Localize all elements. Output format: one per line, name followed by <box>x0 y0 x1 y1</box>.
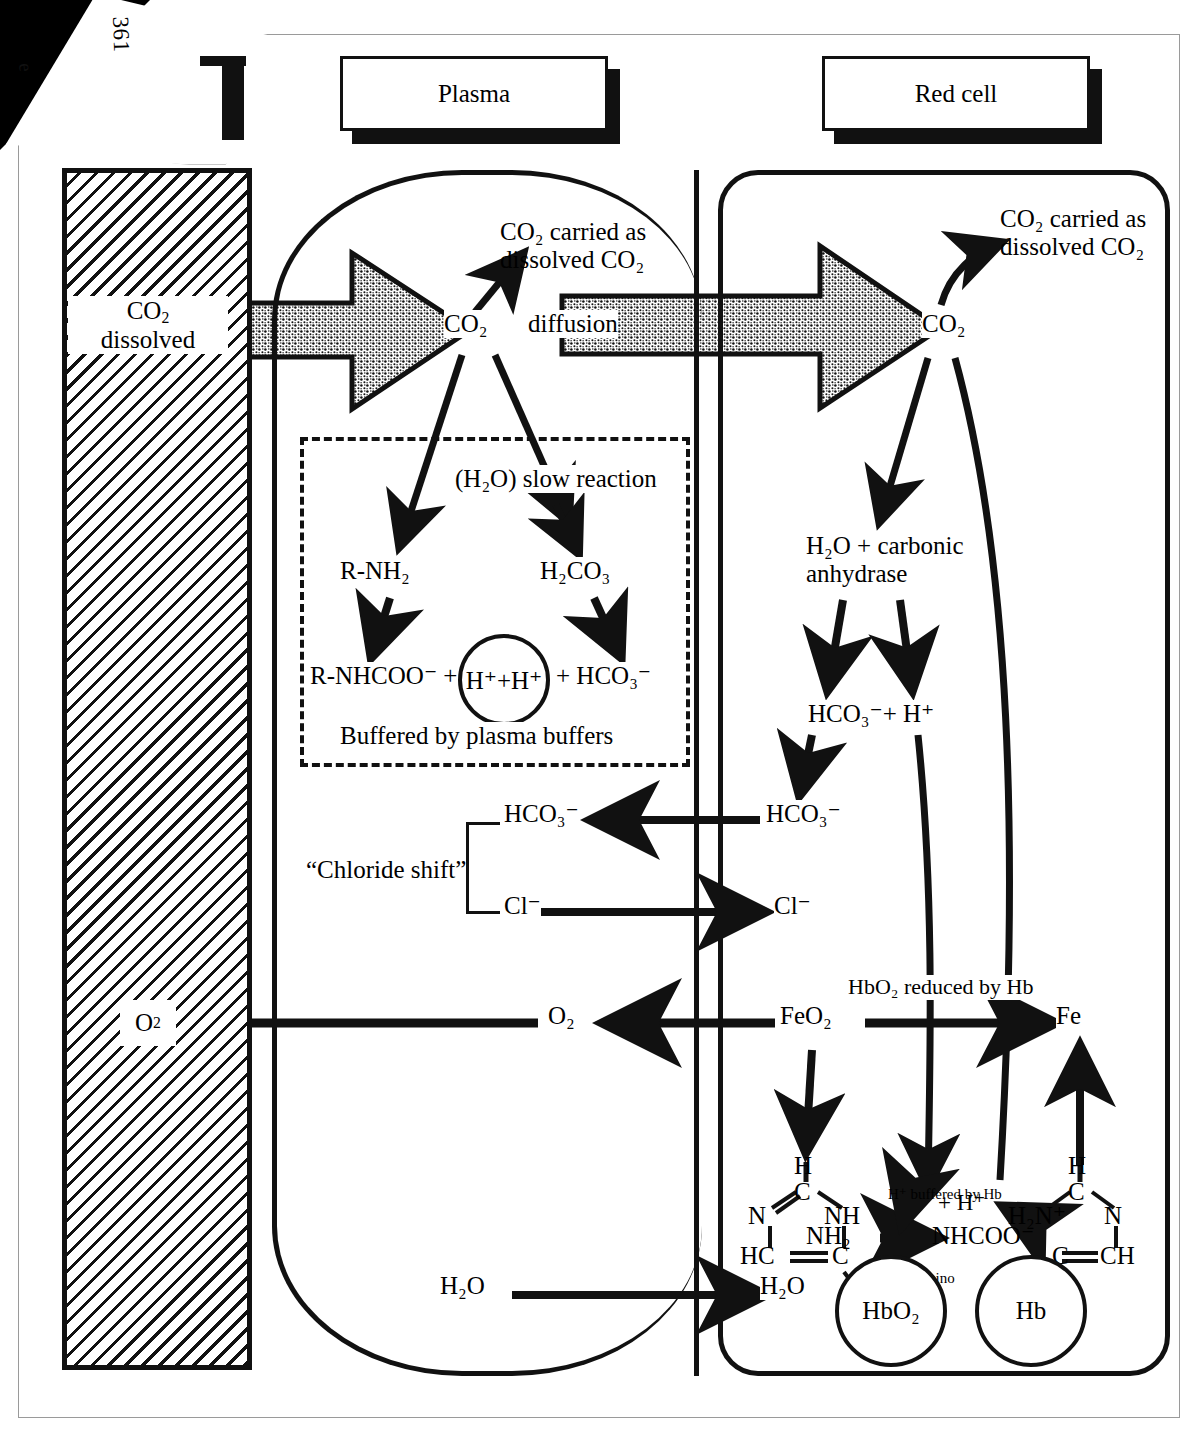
slow-reaction-label: (H₂O) slow reaction <box>455 465 657 493</box>
scanned-diagram-page: 361 e Plasma Red cell CO2 dissolved O2 C… <box>0 0 1197 1437</box>
page-number: 361 <box>107 16 134 53</box>
header-box-plasma: Plasma <box>340 56 608 131</box>
imidazole-right-ch: CH <box>1100 1242 1135 1270</box>
redcell-hco3-node: HCO₃⁻ <box>766 800 841 828</box>
carbonic-anhydrase-label: H₂O + carbonic anhydrase <box>806 532 963 588</box>
imidazole-right-h: H <box>1068 1152 1086 1180</box>
tissue-co2-dissolved-label: CO2 dissolved <box>68 296 228 354</box>
plasma-plus-hco3-node: + HCO₃⁻ <box>556 662 651 690</box>
hbo2-reduced-by-hb-label: HbO₂ reduced by Hb <box>848 975 1033 1000</box>
plasma-co2-carried-line1: CO₂ carried as <box>500 218 646 246</box>
imidazole-left-n: N <box>748 1202 766 1230</box>
chloride-shift-bracket <box>466 822 500 914</box>
plasma-co2-carried-label: CO₂ carried as dissolved CO₂ <box>500 218 646 274</box>
redcell-feo2-node: FeO₂ <box>780 1002 832 1030</box>
plasma-compartment-outline <box>272 170 702 1376</box>
plasma-o2-node: O₂ <box>548 1002 575 1030</box>
carbamino-nh2-node: NH₂ <box>806 1222 851 1250</box>
plasma-co2-carried-line2: dissolved CO₂ <box>500 246 646 274</box>
redcell-hco3-plus-h-node: HCO₃⁻+ H⁺ <box>808 700 934 728</box>
carbonic-anhydrase-line1: H₂O + carbonic <box>806 532 963 560</box>
redcell-cl-node: Cl⁻ <box>774 892 811 920</box>
tissue-co2-line1: CO2 <box>127 297 170 326</box>
redcell-h2o-node: H₂O <box>760 1272 805 1300</box>
imidazole-right-n: N <box>1104 1202 1122 1230</box>
redcell-co2-carried-line2: dissolved CO₂ <box>1000 233 1146 261</box>
plus-h-label: + H⁺ <box>938 1190 985 1216</box>
header-box-artefact-left <box>222 62 244 140</box>
plasma-membrane-right <box>694 170 699 1376</box>
chloride-shift-label: “Chloride shift” <box>306 856 466 884</box>
hbo2-circle: HbO₂ <box>835 1255 947 1367</box>
hb-circle: Hb <box>975 1255 1087 1367</box>
redcell-co2-carried-line1: CO₂ carried as <box>1000 205 1146 233</box>
header-box-red-cell-label: Red cell <box>822 56 1090 131</box>
imidazole-left-h: H <box>794 1152 812 1180</box>
imidazole-right-c-top: C <box>1068 1178 1085 1206</box>
diffusion-label: diffusion <box>528 310 618 338</box>
buffered-by-plasma-buffers-label: Buffered by plasma buffers <box>340 722 613 750</box>
plasma-h2o-node: H₂O <box>440 1272 485 1300</box>
header-box-artefact-top <box>200 56 246 66</box>
redcell-co2-carried-label: CO₂ carried as dissolved CO₂ <box>1000 205 1146 261</box>
tissue-co2-line2: dissolved <box>101 326 195 353</box>
redcell-fe-node: Fe <box>1056 1002 1081 1030</box>
header-box-plasma-label: Plasma <box>340 56 608 131</box>
plasma-cl-node: Cl⁻ <box>504 892 541 920</box>
carbonic-anhydrase-line2: anhydrase <box>806 560 963 588</box>
header-box-red-cell: Red cell <box>822 56 1090 131</box>
plasma-r-nhcoo-node: R-NHCOO⁻ + <box>310 662 457 690</box>
plasma-h-ion-circle: H⁺+H⁺ <box>458 634 550 726</box>
plasma-r-nh2-node: R-NH₂ <box>340 557 410 585</box>
carbamino-nhcoo-node: NHCOO⁻ <box>932 1222 1034 1250</box>
imidazole-left-c-top: C <box>794 1178 811 1206</box>
plasma-h2co3-node: H₂CO₃ <box>540 557 610 585</box>
plasma-co2-node: CO₂ <box>444 310 487 338</box>
imidazole-left-hc: HC <box>740 1242 775 1270</box>
tissue-o2-label: O2 <box>120 1000 176 1046</box>
plasma-hco3-node: HCO₃⁻ <box>504 800 579 828</box>
redcell-co2-node: CO₂ <box>922 310 965 338</box>
